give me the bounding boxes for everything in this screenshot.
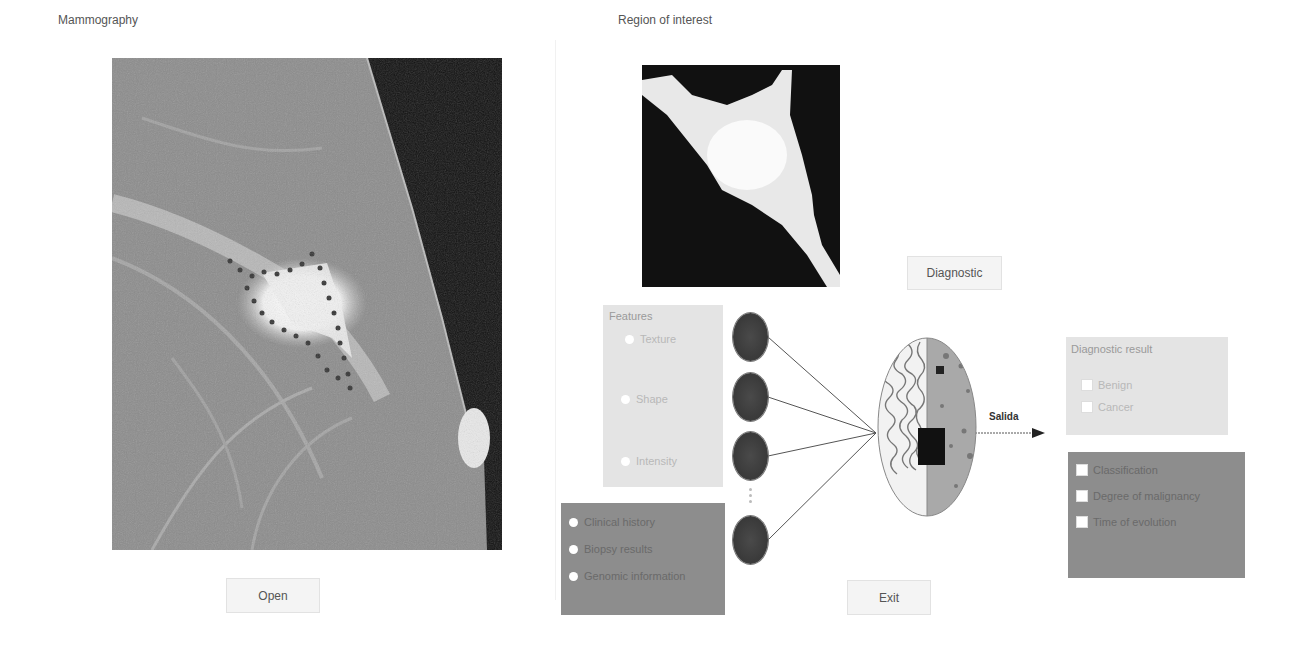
option-genomic-information[interactable]: Genomic information xyxy=(569,570,686,582)
network-node-1 xyxy=(733,313,768,361)
network-node-3 xyxy=(733,432,768,480)
detail-option-degree-of-malignancy[interactable]: Degree of malignancy xyxy=(1076,490,1200,502)
mammography-image xyxy=(112,58,502,550)
region-of-interest-image xyxy=(642,65,840,287)
features-panel: Features Texture Shape Intensity xyxy=(603,305,723,487)
option-biopsy-results[interactable]: Biopsy results xyxy=(569,543,652,555)
ellipsis-dot xyxy=(749,494,752,497)
extra-info-panel: Clinical history Biopsy results Genomic … xyxy=(561,503,725,615)
checkbox-icon[interactable] xyxy=(1076,464,1088,476)
detail-option-time-of-evolution[interactable]: Time of evolution xyxy=(1076,516,1176,528)
radio-icon[interactable] xyxy=(569,545,578,554)
section-divider xyxy=(555,40,556,600)
open-button[interactable]: Open xyxy=(226,578,320,613)
detail-option-classification[interactable]: Classification xyxy=(1076,464,1158,476)
features-panel-title: Features xyxy=(609,310,652,322)
checkbox-icon[interactable] xyxy=(1081,401,1093,413)
brain-chip-icon xyxy=(876,336,978,518)
radio-icon[interactable] xyxy=(625,335,634,344)
checkbox-icon[interactable] xyxy=(1076,490,1088,502)
radio-icon[interactable] xyxy=(569,518,578,527)
option-clinical-history[interactable]: Clinical history xyxy=(569,516,655,528)
exit-button[interactable]: Exit xyxy=(847,580,931,615)
feature-option-texture[interactable]: Texture xyxy=(625,333,676,345)
diagnostic-result-title: Diagnostic result xyxy=(1071,343,1152,355)
diagnostic-button[interactable]: Diagnostic xyxy=(907,256,1002,290)
detail-panel: Classification Degree of malignancy Time… xyxy=(1068,452,1245,578)
feature-option-intensity[interactable]: Intensity xyxy=(621,455,677,467)
diagnostic-result-panel: Diagnostic result Benign Cancer xyxy=(1066,337,1228,435)
output-label: Salida xyxy=(989,411,1018,422)
radio-icon[interactable] xyxy=(569,572,578,581)
ellipsis-dot xyxy=(749,488,752,491)
feature-option-shape[interactable]: Shape xyxy=(621,393,668,405)
ellipsis-dot xyxy=(749,500,752,503)
mammography-label: Mammography xyxy=(58,13,138,27)
region-of-interest-label: Region of interest xyxy=(618,13,712,27)
result-option-cancer[interactable]: Cancer xyxy=(1081,401,1133,413)
network-node-n xyxy=(733,516,768,564)
radio-icon[interactable] xyxy=(621,395,630,404)
checkbox-icon[interactable] xyxy=(1076,516,1088,528)
checkbox-icon[interactable] xyxy=(1081,379,1093,391)
network-node-2 xyxy=(733,373,768,421)
result-option-benign[interactable]: Benign xyxy=(1081,379,1132,391)
radio-icon[interactable] xyxy=(621,457,630,466)
